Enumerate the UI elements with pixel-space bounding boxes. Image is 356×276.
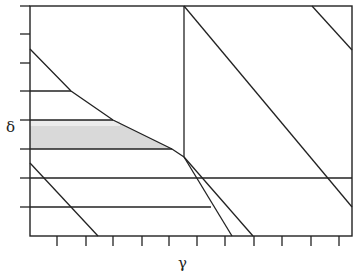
long-diagonal bbox=[184, 6, 352, 207]
shaded-highlight bbox=[30, 121, 120, 126]
kink-branch-a bbox=[184, 157, 232, 236]
lower-left-diagonal bbox=[30, 163, 98, 236]
kink-branch-b bbox=[184, 157, 253, 236]
x-axis-label: γ bbox=[178, 254, 187, 272]
y-axis-label: δ bbox=[6, 118, 15, 136]
top-right-diagonal bbox=[312, 6, 352, 50]
phase-diagram bbox=[0, 0, 356, 276]
